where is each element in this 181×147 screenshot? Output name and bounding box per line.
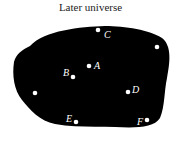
galaxy-point-f <box>145 118 150 123</box>
galaxy-point-a <box>87 64 92 69</box>
universe-diagram: CABDEF <box>0 0 181 147</box>
galaxy-point-c <box>96 28 101 33</box>
point-label-d: D <box>131 84 140 95</box>
point-label-b: B <box>63 67 69 78</box>
point-label-c: C <box>104 29 111 40</box>
point-label-f: F <box>136 116 144 127</box>
galaxy-point <box>33 91 38 96</box>
galaxy-point-e <box>74 120 79 125</box>
galaxy-point <box>155 45 160 50</box>
point-label-e: E <box>65 113 72 124</box>
galaxy-point-d <box>126 90 131 95</box>
universe-blob <box>13 26 169 127</box>
point-label-a: A <box>93 60 101 71</box>
galaxy-point-b <box>71 75 76 80</box>
